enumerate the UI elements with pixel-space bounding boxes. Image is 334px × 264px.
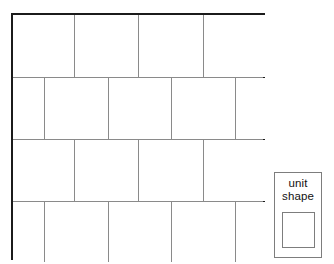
figure-canvas: unit shape (0, 0, 334, 264)
tiling-row (13, 77, 263, 139)
tile (74, 140, 138, 201)
tile (13, 78, 44, 139)
tile (235, 78, 267, 139)
unit-square-swatch (282, 212, 315, 248)
tile (235, 202, 267, 262)
tiling-row (13, 15, 263, 77)
tile (74, 15, 138, 77)
tiling-row (13, 201, 263, 262)
tile (138, 140, 203, 201)
tile (108, 78, 171, 139)
tile (203, 15, 267, 77)
tile (203, 140, 267, 201)
tile (171, 78, 235, 139)
tiling-row (13, 139, 263, 201)
tile (108, 202, 171, 262)
tile (44, 202, 108, 262)
tiling-pattern-figure (11, 13, 265, 260)
unit-shape-legend: unit shape (274, 172, 322, 258)
tile (138, 15, 203, 77)
tile (13, 15, 74, 77)
tile (13, 140, 74, 201)
tile (13, 202, 44, 262)
unit-shape-label: unit shape (275, 177, 321, 203)
tile (171, 202, 235, 262)
tile (44, 78, 108, 139)
